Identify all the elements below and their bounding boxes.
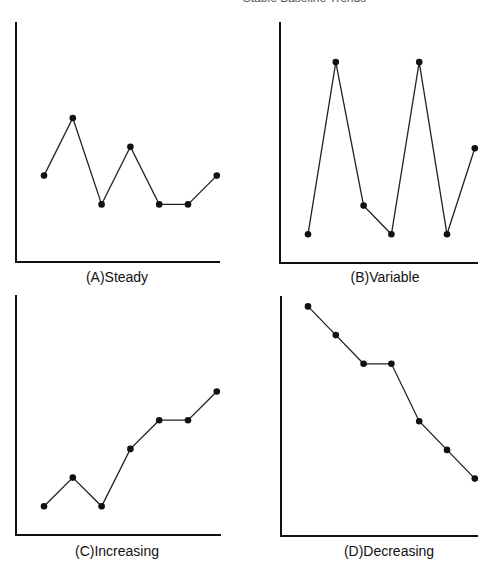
data-point <box>360 202 367 209</box>
data-point <box>156 201 163 208</box>
data-point <box>185 417 192 424</box>
data-point <box>214 388 221 395</box>
data-point <box>416 418 423 425</box>
data-point <box>41 503 48 510</box>
data-point <box>388 361 395 368</box>
data-point <box>127 144 134 151</box>
data-point <box>70 115 77 122</box>
panel-decreasing <box>280 296 478 536</box>
data-line <box>308 306 475 478</box>
data-point <box>156 417 163 424</box>
panel-variable <box>279 22 478 263</box>
data-point <box>333 59 340 66</box>
data-point <box>41 172 48 179</box>
data-point <box>444 447 451 454</box>
data-point <box>98 503 105 510</box>
figure-canvas: (A)Steady (B)Variable (C)Increasing (D)D… <box>0 0 489 568</box>
panel-label-variable: (B)Variable <box>351 269 420 285</box>
data-line <box>308 62 475 234</box>
panel-label-increasing: (C)Increasing <box>75 543 159 559</box>
data-point <box>98 201 105 208</box>
data-point <box>185 201 192 208</box>
data-point <box>333 332 340 339</box>
data-point <box>472 145 479 152</box>
panel-label-decreasing: (D)Decreasing <box>344 543 434 559</box>
data-point <box>388 231 395 238</box>
panel-label-steady: (A)Steady <box>86 269 148 285</box>
panel-steady <box>15 22 220 262</box>
panel-increasing <box>15 295 221 535</box>
data-point <box>444 231 451 238</box>
data-point <box>360 361 367 368</box>
data-point <box>416 59 423 66</box>
data-point <box>70 474 77 481</box>
data-point <box>127 446 134 453</box>
data-line <box>44 118 217 204</box>
data-point <box>472 475 479 482</box>
data-point <box>214 172 221 179</box>
data-point <box>305 231 312 238</box>
data-point <box>305 303 312 310</box>
